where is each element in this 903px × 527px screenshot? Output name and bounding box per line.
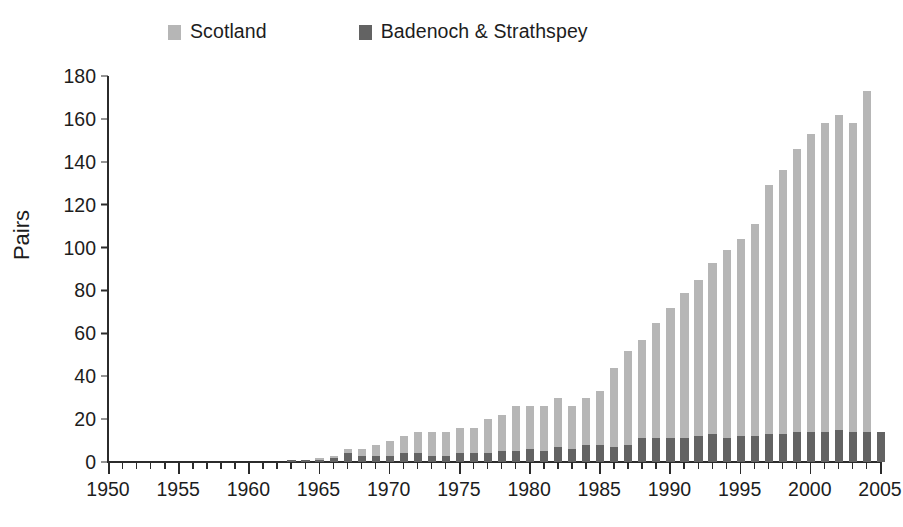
y-axis-tick-label: 120 <box>50 193 96 216</box>
y-axis-tick-mark <box>101 161 108 163</box>
x-axis-tick-minor <box>347 462 348 469</box>
y-axis-tick: 40 <box>50 365 108 388</box>
x-axis-tick-minor <box>655 462 656 469</box>
y-axis-title-text: Pairs <box>9 210 35 260</box>
x-axis-tick-minor <box>585 462 586 469</box>
bar-segment-badenoch-strathspey <box>638 438 646 462</box>
x-axis-tick-minor <box>445 462 446 469</box>
bar-segment-badenoch-strathspey <box>779 434 787 462</box>
legend-label-scotland: Scotland <box>190 22 267 42</box>
y-axis-line <box>107 76 109 462</box>
x-axis-tick-minor <box>487 462 488 469</box>
bar-segment-scotland <box>680 293 688 462</box>
bar-segment-badenoch-strathspey <box>344 453 352 462</box>
bar-segment-badenoch-strathspey <box>442 456 450 462</box>
y-axis-tick: 60 <box>50 322 108 345</box>
bar <box>751 224 759 462</box>
bar <box>301 460 309 462</box>
bar <box>807 134 815 462</box>
chart-legend: Scotland Badenoch & Strathspey <box>0 20 903 44</box>
y-axis-tick-mark <box>101 118 108 120</box>
legend-label-badenoch-strathspey: Badenoch & Strathspey <box>381 22 588 42</box>
x-axis-tick-major <box>529 462 531 474</box>
bar-segment-badenoch-strathspey <box>680 438 688 462</box>
bar-segment-scotland <box>751 224 759 462</box>
bar-segment-badenoch-strathspey <box>540 451 548 462</box>
bar <box>849 123 857 462</box>
x-axis-tick-label: 1995 <box>718 478 761 501</box>
bar <box>624 351 632 463</box>
y-axis-tick-label: 20 <box>50 408 96 431</box>
x-axis-tick-minor <box>571 462 572 469</box>
x-axis-tick-major <box>459 462 461 474</box>
bar-segment-badenoch-strathspey <box>526 449 534 462</box>
x-axis-tick-minor <box>431 462 432 469</box>
bar-segment-scotland <box>694 280 702 462</box>
x-axis-tick-minor <box>712 462 713 469</box>
x-axis-tick-minor <box>726 462 727 469</box>
x-axis-tick-major <box>880 462 882 474</box>
y-axis-tick-label: 0 <box>50 451 96 474</box>
x-axis-tick-minor <box>164 462 165 469</box>
y-axis-tick-mark <box>101 204 108 206</box>
bar <box>315 458 323 462</box>
y-axis-tick-label: 80 <box>50 279 96 302</box>
bar <box>540 406 548 462</box>
y-axis-tick: 100 <box>50 236 108 259</box>
bar <box>568 406 576 462</box>
x-axis-tick-minor <box>305 462 306 469</box>
y-axis-tick-label: 140 <box>50 150 96 173</box>
bar <box>526 406 534 462</box>
bar <box>793 149 801 462</box>
bar <box>498 415 506 462</box>
x-axis-tick-major <box>389 462 391 474</box>
bar-segment-scotland <box>723 250 731 462</box>
bar-segment-scotland <box>835 115 843 462</box>
x-axis-tick-minor <box>683 462 684 469</box>
bar-segment-badenoch-strathspey <box>666 438 674 462</box>
bar-segment-badenoch-strathspey <box>835 430 843 462</box>
bar <box>554 398 562 462</box>
bar <box>765 185 773 462</box>
y-axis-tick-mark <box>101 333 108 335</box>
x-axis-tick-minor <box>234 462 235 469</box>
bar-segment-badenoch-strathspey <box>863 432 871 462</box>
bar <box>863 91 871 462</box>
y-axis-tick-label: 100 <box>50 236 96 259</box>
bar-segment-badenoch-strathspey <box>610 447 618 462</box>
y-axis-tick-mark <box>101 461 108 463</box>
x-axis-tick-major <box>740 462 742 474</box>
y-axis-tick-label: 60 <box>50 322 96 345</box>
x-axis-tick-minor <box>698 462 699 469</box>
bar-segment-badenoch-strathspey <box>582 445 590 462</box>
x-axis-tick-label: 1950 <box>86 478 129 501</box>
bar <box>596 391 604 462</box>
x-axis-tick-minor <box>501 462 502 469</box>
bar-segment-badenoch-strathspey <box>372 456 380 462</box>
x-axis-tick-minor <box>852 462 853 469</box>
bar <box>287 460 295 462</box>
y-axis-tick-label: 40 <box>50 365 96 388</box>
x-axis-tick-minor <box>220 462 221 469</box>
bar-segment-scotland <box>779 170 787 462</box>
x-axis-tick-label: 1985 <box>578 478 621 501</box>
x-axis-tick-minor <box>417 462 418 469</box>
x-axis-tick-minor <box>276 462 277 469</box>
x-axis-tick-minor <box>192 462 193 469</box>
bar-segment-badenoch-strathspey <box>414 453 422 462</box>
bar-segment-badenoch-strathspey <box>652 438 660 462</box>
bar-segment-badenoch-strathspey <box>765 434 773 462</box>
bar-segment-badenoch-strathspey <box>386 456 394 462</box>
bar-segment-badenoch-strathspey <box>751 436 759 462</box>
bar <box>835 115 843 462</box>
bar-segment-scotland <box>849 123 857 462</box>
bar-segment-badenoch-strathspey <box>470 453 478 462</box>
bar-segment-badenoch-strathspey <box>301 460 309 462</box>
plot-area: 020406080100120140160180 195019551960196… <box>108 76 880 462</box>
y-axis-tick: 180 <box>50 65 108 88</box>
x-axis-tick-minor <box>515 462 516 469</box>
bar <box>372 445 380 462</box>
bar <box>442 432 450 462</box>
bar-segment-badenoch-strathspey <box>315 460 323 462</box>
x-axis-tick-minor <box>768 462 769 469</box>
